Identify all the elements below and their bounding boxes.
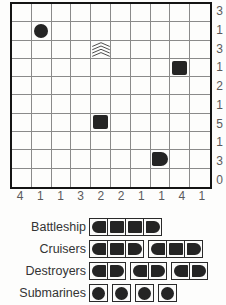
- grid-cell[interactable]: [32, 169, 52, 187]
- grid-cell[interactable]: [151, 77, 171, 95]
- grid-cell[interactable]: [190, 22, 210, 40]
- grid-cell[interactable]: [131, 95, 151, 113]
- grid-cell[interactable]: [190, 77, 210, 95]
- grid-cell[interactable]: [131, 114, 151, 132]
- grid-cell[interactable]: [170, 169, 190, 187]
- grid-cell[interactable]: [91, 4, 111, 22]
- grid-cell[interactable]: [151, 41, 171, 59]
- grid-cell[interactable]: [71, 95, 91, 113]
- grid-cell[interactable]: [91, 77, 111, 95]
- grid-cell[interactable]: [32, 41, 52, 59]
- grid-cell[interactable]: [111, 95, 131, 113]
- grid-cell[interactable]: [131, 41, 151, 59]
- grid-cell[interactable]: [111, 150, 131, 168]
- grid-cell[interactable]: [111, 132, 131, 150]
- grid-cell[interactable]: [52, 150, 72, 168]
- grid-cell[interactable]: [170, 22, 190, 40]
- grid-cell[interactable]: [52, 95, 72, 113]
- grid-cell[interactable]: [131, 77, 151, 95]
- grid-cell[interactable]: [91, 59, 111, 77]
- grid-cell[interactable]: [131, 169, 151, 187]
- grid-cell[interactable]: [32, 132, 52, 150]
- grid-cell[interactable]: [91, 150, 111, 168]
- grid-cell[interactable]: [151, 150, 171, 168]
- grid-cell[interactable]: [52, 114, 72, 132]
- grid-cell[interactable]: [52, 4, 72, 22]
- grid-cell[interactable]: [52, 59, 72, 77]
- grid-cell[interactable]: [170, 59, 190, 77]
- grid-cell[interactable]: [190, 95, 210, 113]
- grid-cell[interactable]: [52, 41, 72, 59]
- grid-cell[interactable]: [111, 59, 131, 77]
- grid-cell[interactable]: [111, 41, 131, 59]
- grid-cell[interactable]: [111, 22, 131, 40]
- grid-cell[interactable]: [71, 132, 91, 150]
- grid-cell[interactable]: [12, 22, 32, 40]
- grid-cell[interactable]: [32, 59, 52, 77]
- grid-cell[interactable]: [52, 77, 72, 95]
- grid-cell[interactable]: [170, 150, 190, 168]
- grid-cell[interactable]: [71, 114, 91, 132]
- grid-cell[interactable]: [12, 95, 32, 113]
- grid-cell[interactable]: [32, 150, 52, 168]
- grid-cell[interactable]: [12, 59, 32, 77]
- grid-cell[interactable]: [190, 114, 210, 132]
- grid-cell[interactable]: [71, 4, 91, 22]
- grid-cell[interactable]: [12, 150, 32, 168]
- grid-cell[interactable]: [91, 95, 111, 113]
- grid-cell[interactable]: [32, 77, 52, 95]
- grid-cell[interactable]: [12, 4, 32, 22]
- grid-cell[interactable]: [111, 114, 131, 132]
- grid-cell[interactable]: [131, 4, 151, 22]
- grid-cell[interactable]: [190, 169, 210, 187]
- grid-cell[interactable]: [71, 41, 91, 59]
- grid-cell[interactable]: [52, 169, 72, 187]
- grid-cell[interactable]: [71, 22, 91, 40]
- grid-cell[interactable]: [190, 4, 210, 22]
- grid-cell[interactable]: [131, 150, 151, 168]
- grid-cell[interactable]: [12, 169, 32, 187]
- grid-cell[interactable]: [131, 59, 151, 77]
- grid-cell[interactable]: [151, 22, 171, 40]
- grid-cell[interactable]: [131, 22, 151, 40]
- grid-cell[interactable]: [170, 132, 190, 150]
- grid-cell[interactable]: [32, 114, 52, 132]
- battleship-grid[interactable]: [10, 2, 212, 189]
- grid-cell[interactable]: [190, 132, 210, 150]
- grid-cell[interactable]: [151, 132, 171, 150]
- grid-cell[interactable]: [32, 95, 52, 113]
- grid-cell[interactable]: [190, 150, 210, 168]
- grid-cell[interactable]: [151, 114, 171, 132]
- grid-cell[interactable]: [151, 95, 171, 113]
- grid-cell[interactable]: [32, 4, 52, 22]
- grid-cell[interactable]: [12, 77, 32, 95]
- grid-cell[interactable]: [52, 132, 72, 150]
- grid-cell[interactable]: [91, 41, 111, 59]
- grid-cell[interactable]: [111, 4, 131, 22]
- grid-cell[interactable]: [151, 59, 171, 77]
- grid-cell[interactable]: [190, 59, 210, 77]
- grid-cell[interactable]: [91, 114, 111, 132]
- grid-cell[interactable]: [52, 22, 72, 40]
- grid-cell[interactable]: [91, 132, 111, 150]
- grid-cell[interactable]: [111, 169, 131, 187]
- grid-cell[interactable]: [170, 77, 190, 95]
- grid-cell[interactable]: [151, 169, 171, 187]
- grid-cell[interactable]: [170, 4, 190, 22]
- grid-cell[interactable]: [71, 150, 91, 168]
- grid-cell[interactable]: [151, 4, 171, 22]
- grid-cell[interactable]: [190, 41, 210, 59]
- grid-cell[interactable]: [111, 77, 131, 95]
- grid-cell[interactable]: [71, 77, 91, 95]
- grid-cell[interactable]: [170, 114, 190, 132]
- grid-cell[interactable]: [170, 95, 190, 113]
- grid-cell[interactable]: [131, 132, 151, 150]
- grid-cell[interactable]: [12, 132, 32, 150]
- grid-cell[interactable]: [91, 22, 111, 40]
- grid-cell[interactable]: [91, 169, 111, 187]
- grid-cell[interactable]: [32, 22, 52, 40]
- grid-cell[interactable]: [71, 169, 91, 187]
- grid-cell[interactable]: [12, 114, 32, 132]
- grid-cell[interactable]: [170, 41, 190, 59]
- grid-cell[interactable]: [71, 59, 91, 77]
